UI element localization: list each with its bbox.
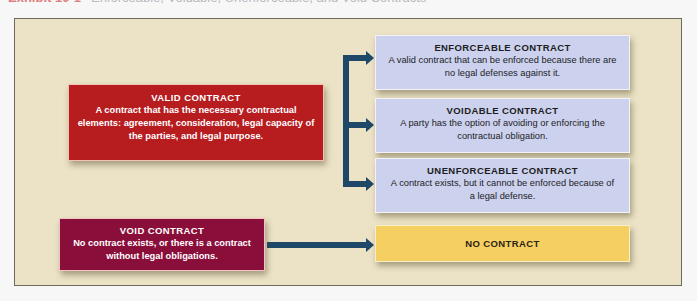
enforceable-contract-title: ENFORCEABLE CONTRACT xyxy=(376,41,629,54)
enforceable-contract-description: A valid contract that can be enforced be… xyxy=(376,54,629,80)
void-contract-description: No contract exists, or there is a contra… xyxy=(60,237,264,263)
valid-contract-description: A contract that has the necessary contra… xyxy=(69,104,323,143)
void-contract-title: VOID CONTRACT xyxy=(60,224,264,237)
no-contract-box: NO CONTRACT xyxy=(375,225,630,262)
enforceable-contract-box: ENFORCEABLE CONTRACT A valid contract th… xyxy=(375,35,630,90)
voidable-contract-description: A party has the option of avoiding or en… xyxy=(376,117,629,143)
arrowhead-icon xyxy=(366,118,374,132)
valid-contract-box: VALID CONTRACT A contract that has the n… xyxy=(68,84,324,161)
no-contract-title: NO CONTRACT xyxy=(465,237,540,250)
valid-contract-title: VALID CONTRACT xyxy=(69,91,323,104)
connector-void xyxy=(267,242,367,248)
voidable-contract-title: VOIDABLE CONTRACT xyxy=(376,104,629,117)
unenforceable-contract-box: UNENFORCEABLE CONTRACT A contract exists… xyxy=(375,158,630,213)
voidable-contract-box: VOIDABLE CONTRACT A party has the option… xyxy=(375,98,630,153)
void-contract-box: VOID CONTRACT No contract exists, or the… xyxy=(59,218,265,271)
connector-vertical-bar xyxy=(343,55,349,187)
arrowhead-icon xyxy=(366,238,374,252)
unenforceable-contract-title: UNENFORCEABLE CONTRACT xyxy=(376,164,629,177)
arrowhead-icon xyxy=(366,51,374,65)
unenforceable-contract-description: A contract exists, but it cannot be enfo… xyxy=(376,177,629,203)
arrowhead-icon xyxy=(366,177,374,191)
